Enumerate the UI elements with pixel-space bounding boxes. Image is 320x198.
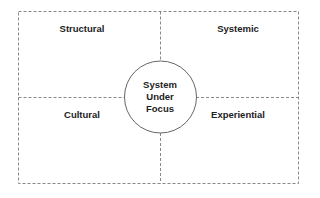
quadrant-label-cultural: Cultural (64, 109, 100, 120)
quadrant-label-systemic: Systemic (217, 23, 259, 34)
quadrant-label-experiential: Experiential (211, 109, 265, 120)
quadrant-label-structural: Structural (60, 23, 105, 34)
center-label: System Under Focus (130, 79, 190, 115)
center-line-3: Focus (130, 103, 190, 115)
center-line-1: System (130, 79, 190, 91)
center-line-2: Under (130, 91, 190, 103)
